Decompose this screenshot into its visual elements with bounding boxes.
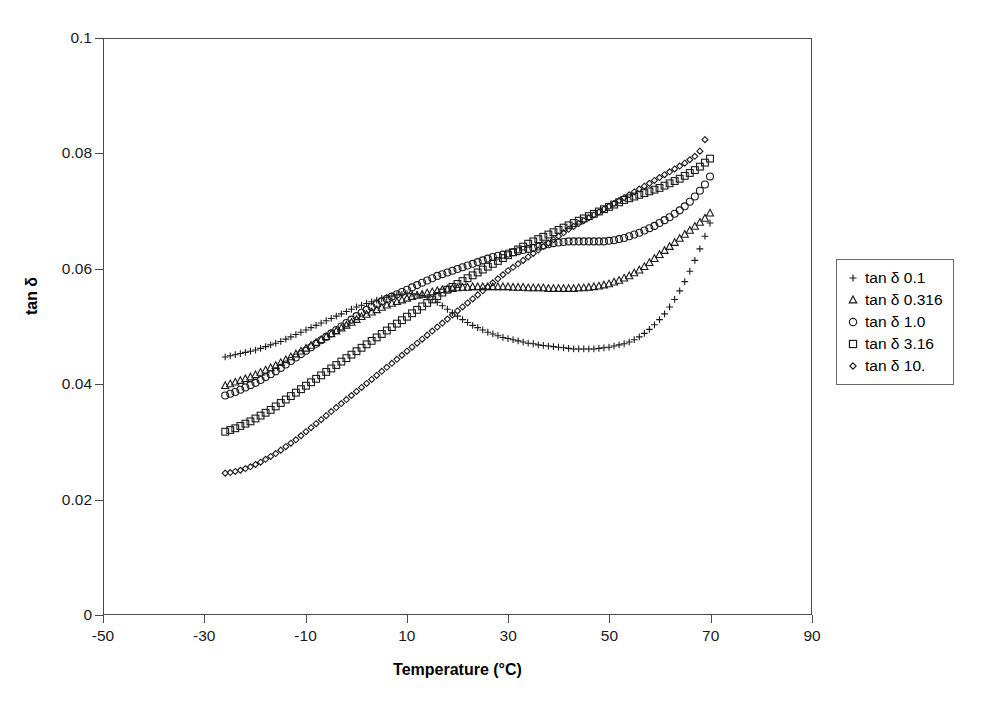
data-point-plus [560,344,567,351]
data-point-plus [272,340,279,347]
data-point-square [707,155,714,162]
data-point-diamond [520,257,526,263]
x-tick-label: 90 [782,628,842,644]
data-point-plus [550,343,557,350]
data-point-plus [697,245,704,252]
y-tick-label: 0.1 [40,30,92,46]
x-tick-mark [711,615,712,623]
data-point-diamond [465,300,471,306]
data-point-plus [222,354,229,361]
legend-item-1[interactable]: tan δ 0.316 [845,289,943,311]
data-point-plus [232,351,239,358]
data-point-diamond [399,352,405,358]
data-point-plus [540,342,547,349]
legend-marker-plus-icon [845,270,861,286]
x-tick-mark [609,615,610,623]
data-point-diamond [404,348,410,354]
data-point-diamond [359,384,365,390]
data-point-diamond [308,425,314,431]
data-point-diamond [343,397,349,403]
data-point-plus [702,233,709,240]
plot-area [103,38,812,615]
y-axis-tick-labels: 00.020.040.060.080.1 [30,0,92,706]
data-point-square [641,190,648,197]
legend-item-3[interactable]: tan δ 3.16 [845,333,943,355]
data-point-plus [525,340,532,347]
x-tick-label: 10 [377,628,437,644]
data-point-diamond [348,393,354,399]
x-tick-mark [812,615,813,623]
series-2 [222,173,714,399]
data-point-diamond [505,268,511,274]
data-point-diamond [439,320,445,326]
data-point-square [242,420,249,427]
data-point-square [227,427,234,434]
x-tick-label: 50 [579,628,639,644]
data-point-diamond [525,254,531,260]
data-point-circle [525,245,532,252]
y-tick-label: 0.08 [40,145,92,161]
data-point-diamond [500,272,506,278]
data-point-plus [555,344,562,351]
data-point-plus [676,287,683,294]
data-point-diamond [702,137,708,143]
legend-item-0[interactable]: tan δ 0.1 [845,267,943,289]
data-point-diamond [692,153,698,159]
data-point-diamond [697,148,703,154]
data-point-plus [515,337,522,344]
chart-page: 00.020.040.060.080.1 -50-30-101030507090… [0,0,999,706]
x-tick-label: 30 [478,628,538,644]
data-point-plus [252,347,259,354]
y-tick-mark [95,38,103,39]
data-point-diamond [278,447,284,453]
data-point-square [540,233,547,240]
legend-label: tan δ 10. [865,358,925,374]
y-tick-mark [95,384,103,385]
data-point-diamond [364,380,370,386]
legend-item-4[interactable]: tan δ 10. [845,355,943,377]
chart-legend: tan δ 0.1tan δ 0.316tan δ 1.0tan δ 3.16t… [836,259,954,385]
data-point-plus [237,350,244,357]
data-point-plus [601,344,608,351]
data-point-diamond [374,372,380,378]
data-point-diamond [515,261,521,267]
data-point-plus [606,344,613,351]
data-point-plus [681,278,688,285]
data-point-triangle [849,296,857,303]
x-axis-title: Temperature (°C) [103,661,812,679]
y-tick-mark [95,269,103,270]
data-point-plus [616,342,623,349]
series-3 [222,155,714,435]
data-point-plus [641,330,648,337]
legend-marker-diamond-icon [845,358,861,374]
data-point-diamond [354,388,360,394]
data-point-diamond [495,276,501,282]
data-point-diamond [460,304,466,310]
data-point-plus [262,343,269,350]
data-point-circle [494,252,501,259]
y-tick-label: 0.06 [40,261,92,277]
x-tick-mark [508,615,509,623]
data-point-diamond [283,444,289,450]
legend-item-2[interactable]: tan δ 1.0 [845,311,943,333]
data-point-triangle [706,209,713,216]
data-point-circle [671,210,678,217]
legend-label: tan δ 1.0 [865,314,925,330]
data-point-square [646,188,653,195]
data-point-plus [489,331,496,338]
data-point-plus [257,345,264,352]
data-point-diamond [409,344,415,350]
data-point-square [550,229,557,236]
data-point-plus [666,304,673,311]
data-point-diamond [384,364,390,370]
data-point-circle [701,181,708,188]
data-point-diamond [429,328,435,334]
data-point-square [222,428,229,435]
y-axis-title: tan δ [23,251,41,341]
data-point-diamond [328,409,334,415]
data-point-diamond [369,376,375,382]
data-point-diamond [318,417,324,423]
data-point-diamond [298,433,304,439]
data-point-square [232,425,239,432]
x-tick-label: -50 [73,628,133,644]
